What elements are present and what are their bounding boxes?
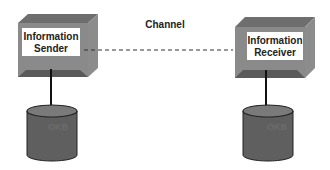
receiver-label-line1: Information: [248, 35, 303, 46]
diagram-canvas: Information Sender Channel Information R…: [0, 0, 330, 170]
sender-database-icon: OKB: [27, 105, 77, 161]
channel-label: Channel: [145, 19, 185, 30]
sender-label-line2: Sender: [34, 43, 68, 54]
sender-label-line1: Information: [24, 31, 79, 42]
receiver-database-icon: OKB: [243, 105, 293, 161]
sender-box: Information Sender: [18, 14, 98, 77]
receiver-box: Information Receiver: [235, 17, 315, 78]
receiver-label-line2: Receiver: [254, 47, 296, 58]
sender-db-label: OKB: [48, 122, 69, 132]
receiver-db-label: OKB: [267, 122, 288, 132]
